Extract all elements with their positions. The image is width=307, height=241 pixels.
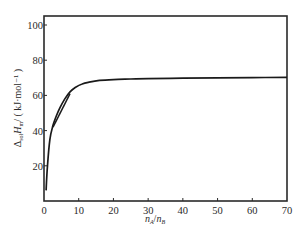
x-axis-label: nA/nB [145, 213, 165, 225]
data-series [46, 77, 287, 190]
y-tick-label: 80 [33, 55, 44, 66]
tangent-annotation [53, 94, 70, 127]
plot-frame [44, 16, 287, 201]
x-tick-label: 50 [212, 205, 223, 216]
x-tick-label: 10 [73, 205, 84, 216]
series-line [46, 77, 287, 190]
y-tick-label: 100 [27, 20, 43, 31]
chart: 010203040506070 20406080100 nA/nB ΔsolHm… [0, 0, 307, 241]
x-tick-label: 60 [247, 205, 258, 216]
tangent-line [53, 94, 70, 127]
y-axis-label: ΔsolHm/ ( kJ·mol⁻¹ ) [12, 69, 24, 147]
plot-border [44, 16, 287, 201]
x-tick-label: 20 [108, 205, 119, 216]
x-tick-label: 70 [282, 205, 293, 216]
y-tick-label: 40 [33, 126, 44, 137]
y-tick-label: 20 [33, 161, 44, 172]
y-tick-label: 60 [33, 90, 44, 101]
x-tick-label: 40 [178, 205, 189, 216]
x-tick-label: 0 [41, 205, 46, 216]
